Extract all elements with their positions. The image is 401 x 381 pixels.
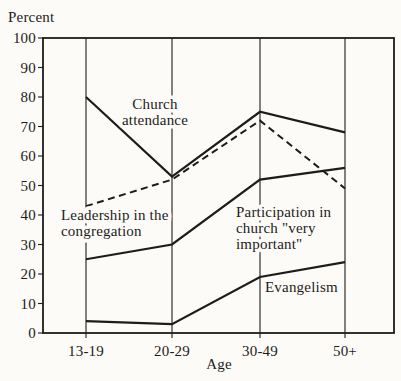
x-axis-tick-label: 30-49: [242, 343, 278, 359]
y-axis-tick-label: 50: [21, 178, 36, 194]
y-axis-tick-label: 0: [28, 325, 36, 341]
x-axis-tick-label: 50+: [333, 343, 357, 359]
plot-area: 13-1920-2930-4950+0102030405060708090100…: [13, 30, 394, 359]
line-chart: Percent 13-1920-2930-4950+01020304050607…: [0, 0, 401, 381]
y-axis-tick-label: 90: [21, 60, 36, 76]
y-axis-tick-label: 70: [21, 119, 36, 135]
y-axis-tick-label: 60: [21, 148, 36, 164]
y-axis-title: Percent: [8, 9, 55, 25]
y-axis-tick-label: 40: [21, 207, 36, 223]
x-axis-tick-label: 13-19: [68, 343, 104, 359]
y-axis-tick-label: 30: [21, 237, 36, 253]
y-axis-tick-label: 100: [13, 30, 36, 46]
y-axis-tick-label: 80: [21, 89, 36, 105]
series-label-leadership-in-the-congregation: Leadership in thecongregation: [61, 207, 169, 239]
x-axis-title: Age: [206, 356, 232, 372]
series-label-evangelism: Evangelism: [265, 279, 338, 295]
series-label-participation-in-church-very-important: Participation inchurch "veryimportant": [236, 204, 332, 252]
series-line-church-attendance: [86, 97, 345, 177]
series-label-church-attendance: Churchattendance: [122, 96, 188, 128]
y-axis-tick-label: 10: [21, 296, 36, 312]
chart-figure: Percent 13-1920-2930-4950+01020304050607…: [0, 0, 401, 381]
y-axis-tick-label: 20: [21, 266, 36, 282]
x-axis-tick-label: 20-29: [154, 343, 190, 359]
